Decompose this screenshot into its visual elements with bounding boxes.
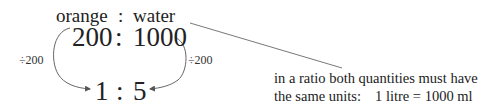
original-ratio-colon: :	[115, 24, 123, 51]
right-operation-label: ÷200	[188, 54, 213, 66]
annotation-line2-label: the same units:	[274, 87, 361, 105]
original-ratio-right: 1000	[133, 24, 187, 51]
annotation-line1: in a ratio both quantities must have	[274, 69, 478, 87]
left-operation-label: ÷200	[19, 54, 44, 66]
annotation-leader-line	[190, 23, 342, 68]
simplified-ratio-right: 5	[133, 78, 147, 105]
original-ratio-left: 200	[72, 24, 113, 51]
annotation-line2-equation: 1 litre = 1000 ml	[375, 87, 473, 105]
simplified-ratio-left: 1	[95, 78, 109, 105]
simplified-ratio-colon: :	[116, 78, 124, 105]
